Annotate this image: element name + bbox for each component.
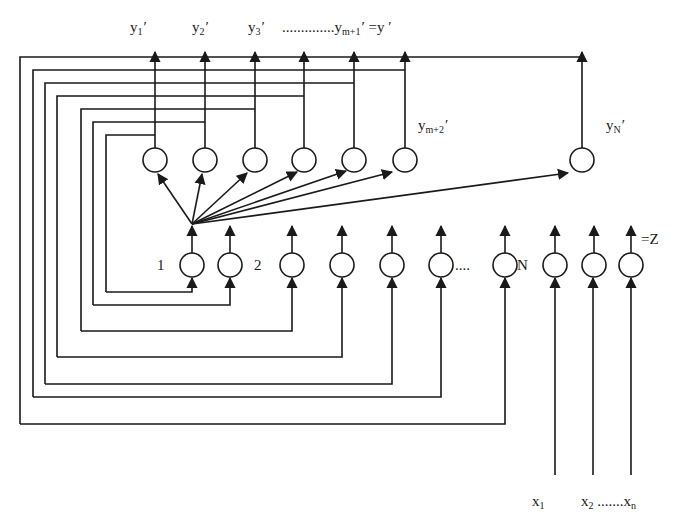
label-hidden-2: 2: [254, 258, 262, 273]
output-neuron-2: [193, 148, 217, 172]
hidden-neuron-4: [330, 253, 354, 277]
label-ym1-equals-y: ..............ym+1′ =y ′: [282, 20, 391, 37]
hidden-neuron-5: [380, 253, 404, 277]
label-equals-Z: =Z: [641, 232, 659, 247]
hidden-neurons: [180, 253, 643, 277]
output-neuron-N: [570, 148, 594, 172]
output-neuron-m+2: [393, 148, 417, 172]
hidden-output-arrows: [192, 226, 631, 253]
feedback-lines-top: [20, 57, 582, 424]
hidden-neuron-N: [493, 253, 517, 277]
input-lines: [555, 278, 631, 475]
hidden-neuron-1: [180, 253, 204, 277]
output-neuron-3: [243, 148, 267, 172]
hidden-neuron-3: [280, 253, 304, 277]
fan-out-arrows: [158, 171, 568, 224]
input-neuron-n: [619, 253, 643, 277]
label-hidden-dots: ....: [455, 258, 470, 273]
label-x2-to-xn: x2 .......xn: [581, 494, 636, 511]
network-diagram: [0, 0, 685, 522]
label-x1: x1: [532, 494, 545, 511]
input-neuron-1: [543, 253, 567, 277]
label-y3-prime: y3′: [248, 20, 265, 37]
label-y1-prime: y1′: [130, 20, 147, 37]
input-neuron-2: [582, 253, 606, 277]
output-neuron-4: [292, 148, 316, 172]
output-neuron-m+1: [342, 148, 366, 172]
hidden-neuron-6: [429, 253, 453, 277]
label-ym2-prime: ym+2′: [418, 118, 448, 135]
label-hidden-1: 1: [157, 258, 165, 273]
label-yN-prime: yN′: [606, 118, 625, 135]
output-neurons: [143, 148, 594, 172]
label-hidden-N: N: [517, 258, 528, 273]
output-neuron-1: [143, 148, 167, 172]
hidden-neuron-2: [218, 253, 242, 277]
output-arrows: [155, 52, 582, 148]
label-y2-prime: y2′: [192, 20, 209, 37]
